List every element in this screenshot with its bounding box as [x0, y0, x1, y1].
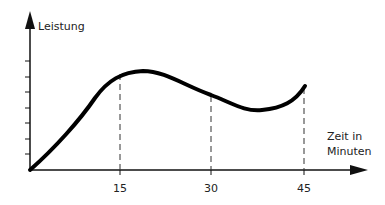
- performance-curve: [30, 71, 305, 170]
- y-axis-arrow-icon: [25, 11, 35, 29]
- x-tick-label-45: 45: [297, 182, 311, 195]
- dashed-guides: [120, 74, 304, 170]
- y-axis-label: Leistung: [38, 20, 85, 33]
- x-axis-arrow-icon: [350, 165, 368, 175]
- x-axis-label-line2: Minuten: [327, 145, 372, 158]
- x-axis-label-line1: Zeit in: [327, 130, 362, 143]
- x-tick-label-30: 30: [204, 182, 218, 195]
- x-tick-label-15: 15: [113, 182, 127, 195]
